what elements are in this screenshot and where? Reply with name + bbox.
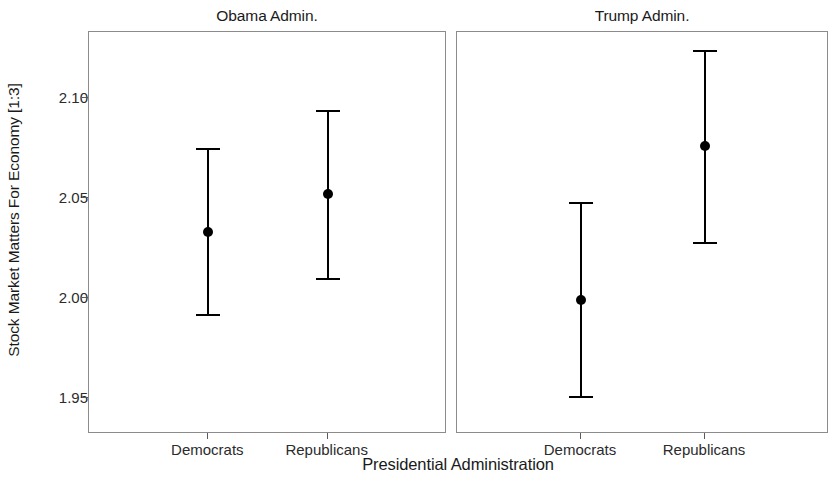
errorbar-cap-lower — [693, 242, 717, 244]
errorbar-cap-lower — [569, 396, 593, 398]
panel-title-obama: Obama Admin. — [88, 6, 446, 26]
data-point — [323, 189, 333, 199]
data-point — [203, 227, 213, 237]
x-axis-title: Presidential Administration — [88, 455, 828, 474]
panel-obama — [88, 31, 446, 433]
x-tick-mark — [704, 433, 705, 439]
errorbar-cap-upper — [196, 148, 220, 150]
chart-figure: Stock Market Matters For Economy [1:3] 1… — [0, 0, 838, 479]
y-axis: 1.952.002.052.10 — [30, 0, 88, 479]
errorbar-cap-upper — [693, 50, 717, 52]
x-tick-mark — [327, 433, 328, 439]
errorbar-cap-lower — [316, 278, 340, 280]
y-axis-title: Stock Market Matters For Economy [1:3] — [2, 0, 26, 440]
data-point — [700, 141, 710, 151]
errorbar-cap-upper — [569, 202, 593, 204]
panel-title-trump: Trump Admin. — [456, 6, 828, 26]
errorbar-cap-lower — [196, 314, 220, 316]
x-tick-mark — [580, 433, 581, 439]
panel-trump — [456, 31, 828, 433]
data-point — [576, 295, 586, 305]
x-tick-mark — [207, 433, 208, 439]
errorbar-cap-upper — [316, 110, 340, 112]
